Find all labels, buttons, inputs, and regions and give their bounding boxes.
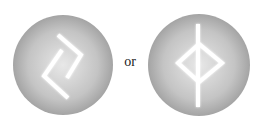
- ingwaz-rune-disc: [136, 0, 256, 128]
- jera-rune-disc: [0, 0, 128, 128]
- gray-disc: [13, 15, 113, 115]
- rune-comparison-figure: or: [0, 0, 256, 128]
